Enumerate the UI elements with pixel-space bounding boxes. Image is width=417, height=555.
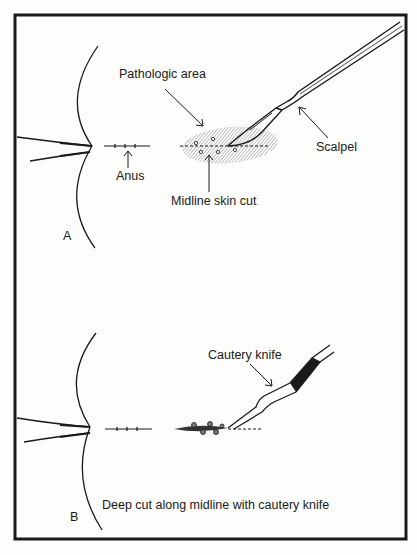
- anus-mark-b: [105, 427, 152, 431]
- panel-b-buttocks-outline: [17, 333, 102, 530]
- cautery-knife-label: Cautery knife: [208, 348, 282, 362]
- panel-a-buttocks-outline: [17, 46, 98, 248]
- panel-b-letter: B: [70, 510, 78, 524]
- midline-skin-cut-label: Midline skin cut: [171, 194, 256, 208]
- anus-label: Anus: [116, 169, 145, 183]
- scalpel-arrow: [299, 107, 328, 138]
- pathologic-area-arrow: [165, 89, 203, 126]
- pathologic-area-label: Pathologic area: [119, 67, 206, 81]
- scalpel: [228, 22, 404, 146]
- cautery-knife-arrow: [250, 364, 272, 386]
- scalpel-label: Scalpel: [316, 140, 357, 154]
- cautery-wound: [174, 422, 262, 435]
- panel-b-caption: Deep cut along midline with cautery knif…: [102, 498, 329, 512]
- anus-mark-a: [104, 144, 150, 148]
- figure-frame: [15, 15, 406, 539]
- diagram-canvas: [0, 0, 417, 555]
- panel-a-letter: A: [63, 229, 71, 243]
- anus-arrow: [124, 151, 132, 168]
